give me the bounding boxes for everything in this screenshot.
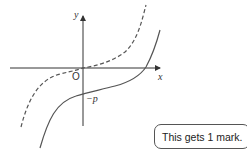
y-axis-label: y xyxy=(73,9,79,20)
x-axis-label: x xyxy=(157,71,163,82)
mark-callout: This gets 1 mark. xyxy=(154,124,247,149)
solid-curve xyxy=(40,30,160,148)
callout-text: This gets 1 mark. xyxy=(162,131,243,143)
origin-label: O xyxy=(72,71,80,82)
intercept-label: −p xyxy=(86,93,98,104)
